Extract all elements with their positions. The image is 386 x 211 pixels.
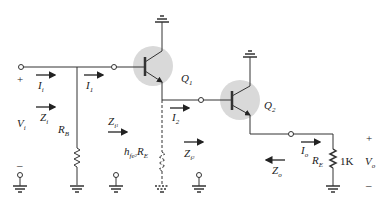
re-value-label: 1K xyxy=(340,156,353,167)
vo-label: Vo xyxy=(365,156,375,170)
rb-label: RB xyxy=(58,124,69,138)
zo-label: Zo xyxy=(272,165,282,179)
output-terminal xyxy=(289,132,294,137)
zi1-label: Zi1 xyxy=(108,116,119,130)
i2-label: I2 xyxy=(172,112,179,126)
input-plus-label: + xyxy=(17,74,23,85)
circuit-diagram: + – Vi Ii Zi I1 RB Q1 Zi1 hfe2RE I2 Zi2 … xyxy=(0,0,386,211)
q1-label: Q1 xyxy=(181,73,192,87)
ground-symbols xyxy=(13,173,340,193)
rb-resistor xyxy=(74,148,80,167)
i1-label: I1 xyxy=(86,80,93,94)
vi-label: Vi xyxy=(17,118,26,132)
hfe2re-label: hfe2RE xyxy=(124,146,148,160)
q1-base-terminal xyxy=(112,65,117,70)
q1-highlight xyxy=(133,46,173,86)
hfe2re-resistor xyxy=(159,152,165,171)
input-terminal xyxy=(19,65,24,70)
zi-label: Zi xyxy=(40,112,48,126)
re-label: RE xyxy=(312,155,323,169)
input-minus-label: – xyxy=(17,160,23,171)
output-minus-label: – xyxy=(366,180,372,191)
re-resistor xyxy=(330,149,336,168)
output-plus-label: + xyxy=(366,133,372,144)
ii-label: Ii xyxy=(38,80,44,94)
q2-label: Q2 xyxy=(264,100,275,114)
io-label: Io xyxy=(301,145,308,159)
q2-base-terminal xyxy=(199,98,204,103)
circuit-schematic xyxy=(0,0,386,211)
zi2-label: Zi2 xyxy=(184,148,195,162)
